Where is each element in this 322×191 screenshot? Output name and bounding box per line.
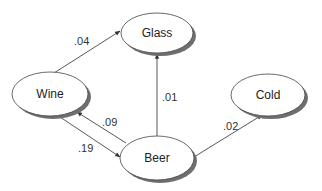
node-cold: Cold (231, 74, 308, 119)
node-label: Beer (144, 151, 169, 165)
edge-weight-label: .09 (102, 116, 117, 128)
edge-wine-to-glass: .04 (54, 31, 120, 73)
node-label: Wine (36, 87, 64, 101)
node-glass: Glass (121, 13, 196, 56)
node-beer: Beer (120, 136, 197, 183)
edge-weight-label: .01 (162, 91, 177, 103)
diagram-canvas: .04 .01 .09 .19 .02 Glass Wine (0, 0, 322, 191)
edge-weight-label: .02 (223, 120, 238, 132)
edge-weight-label: .19 (78, 142, 93, 154)
edge-beer-to-wine: .09 (77, 112, 126, 143)
node-wine: Wine (12, 72, 91, 119)
edge-beer-to-glass: .01 (157, 54, 177, 136)
network-diagram: .04 .01 .09 .19 .02 Glass Wine (0, 0, 322, 191)
edge-beer-to-cold: .02 (194, 115, 262, 157)
edge-weight-label: .04 (74, 35, 89, 47)
node-label: Glass (142, 26, 173, 40)
node-label: Cold (256, 88, 281, 102)
